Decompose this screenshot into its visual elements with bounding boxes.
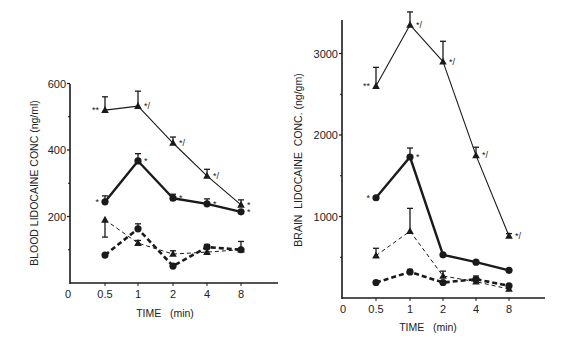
circle-marker [237,208,244,215]
significance-mark: * [179,193,183,203]
circle-marker [505,267,512,274]
significance-mark: * [366,193,370,203]
x-tick-label: 8 [506,303,512,315]
series-thin-dashed [101,216,245,257]
significance-mark: * [144,156,148,166]
circle-marker [439,279,446,286]
circle-marker [237,246,244,253]
circle-marker [203,243,210,250]
series-thick-dashed [101,224,244,270]
y-tick-label: 400 [48,144,66,156]
significance-mark: */ [515,231,522,241]
x-tick-label: 4 [473,303,479,315]
series-line [105,106,241,205]
significance-mark: * [95,197,99,207]
triangle-marker [134,102,142,109]
y-tick-label: 2000 [314,129,338,141]
y-tick-label: 3000 [314,48,338,60]
circle-marker [372,194,379,201]
series-line [105,161,241,212]
x-tick-label: 4 [204,288,210,300]
significance-mark: */ [144,101,151,111]
significance-mark: * [416,152,420,162]
significance-mark: ** [92,105,100,115]
x-tick-label: 1 [135,288,141,300]
brain-lidocaine-chart: 10002000300000.51248TIME (min)BRAIN LIDO… [292,12,545,333]
circle-marker [203,200,210,207]
circle-marker [169,195,176,202]
x-tick-label: 0 [340,303,346,315]
circle-marker [439,251,446,258]
significance-mark: */ [416,20,423,30]
x-axis-title: TIME (min) [136,307,194,319]
y-tick-label: 600 [48,78,66,90]
circle-marker [505,282,512,289]
triangle-marker [472,151,480,158]
circle-marker [406,153,413,160]
series-thin-solid: ***/*/*/*/ [363,12,522,241]
y-tick-label: 1000 [314,211,338,223]
blood-lidocaine-chart: 20040060000.51248TIME (min)BLOOD LIDOCAI… [28,78,278,320]
circle-marker [406,268,413,275]
series-thin-solid: ***/*/*/* [92,91,251,210]
triangle-marker [406,21,414,28]
triangle-marker [406,227,414,234]
circle-marker [134,157,141,164]
y-axis-title: BRAIN LIDOCAINE CONC. (ng/gm) [292,73,304,246]
circle-marker [134,225,141,232]
x-tick-label: 0.5 [97,288,112,300]
significance-mark: ** [363,81,371,91]
circle-marker [101,251,108,258]
x-tick-label: 0 [65,288,71,300]
significance-mark: */ [449,57,456,67]
circle-marker [101,198,108,205]
circle-marker [372,279,379,286]
circle-marker [472,259,479,266]
x-tick-label: 1 [407,303,413,315]
series-thick-solid: ***** [95,154,251,217]
x-tick-label: 8 [238,288,244,300]
triangle-marker [372,252,380,259]
circle-marker [169,262,176,269]
lidocaine-concentration-figure: 20040060000.51248TIME (min)BLOOD LIDOCAI… [0,0,566,349]
triangle-marker [101,216,109,223]
significance-mark: * [213,199,217,209]
triangle-marker [372,82,380,89]
series-thick-solid: ** [366,148,512,274]
y-axis-title: BLOOD LIDOCAINE CONC (ng/ml) [28,100,40,266]
circle-marker [472,276,479,283]
x-axis-title: TIME (min) [399,321,457,333]
significance-mark: */ [213,171,220,181]
significance-mark: * [247,207,251,217]
significance-mark: */ [482,150,489,160]
y-tick-label: 200 [48,211,66,223]
x-tick-label: 0.5 [368,303,383,315]
series-line [105,229,241,266]
significance-mark: */ [179,138,186,148]
x-tick-label: 2 [440,303,446,315]
x-tick-label: 2 [170,288,176,300]
